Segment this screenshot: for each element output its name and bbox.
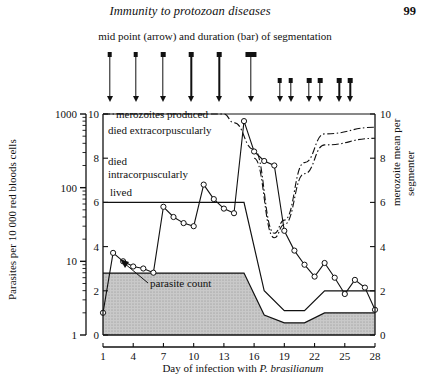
parasite-count-point bbox=[211, 197, 216, 202]
x-axis-tick-label: 28 bbox=[370, 350, 382, 362]
parasite-count-point bbox=[312, 274, 317, 279]
parasite-count-point bbox=[201, 182, 206, 187]
parasite-count-point bbox=[111, 250, 116, 255]
parasite-count-point bbox=[231, 211, 236, 216]
parasite-count-point bbox=[322, 260, 327, 265]
parasite-count-point bbox=[171, 214, 176, 219]
parasite-count-point bbox=[141, 266, 146, 271]
x-axis-title: Day of infection with P. brasilianum bbox=[162, 362, 323, 374]
y-inner-tick-label: 2 bbox=[94, 285, 100, 297]
y-inner-tick-label: 10 bbox=[88, 108, 100, 120]
x-axis-tick-label: 7 bbox=[161, 350, 167, 362]
died-extracorpuscularly-label: died extracorpuscularly bbox=[108, 124, 212, 136]
y-inner-tick-label: 4 bbox=[94, 241, 100, 253]
died-label-line1: died bbox=[108, 155, 127, 167]
parasite-count-point bbox=[181, 221, 186, 226]
parasite-count-point bbox=[332, 275, 337, 280]
parasite-count-point bbox=[221, 206, 226, 211]
y-left-tick-label: 1000 bbox=[55, 108, 78, 120]
merozoites-produced-label: merozoites produced bbox=[116, 108, 208, 120]
x-axis-tick-label: 16 bbox=[249, 350, 261, 362]
parasite-count-point bbox=[131, 264, 136, 269]
parasite-count-point bbox=[282, 228, 287, 233]
merozoites-produced-line-lower bbox=[254, 138, 375, 238]
y-left-tick-label: 1 bbox=[72, 329, 78, 341]
x-axis-tick-label: 10 bbox=[188, 350, 200, 362]
x-axis-tick-label: 25 bbox=[339, 350, 351, 362]
x-axis-tick-label: 1 bbox=[100, 350, 106, 362]
y-left-axis-title: Parasites per 10 000 red bloods cells bbox=[6, 139, 18, 300]
x-axis-tick-label: 13 bbox=[218, 350, 230, 362]
y-inner-tick-label: 0 bbox=[94, 329, 100, 341]
parasite-count-point bbox=[151, 270, 156, 275]
died-label-line2: intracorpuscularly bbox=[108, 168, 189, 180]
parasite-count-point bbox=[272, 163, 277, 168]
y-left-tick-label: 100 bbox=[61, 182, 78, 194]
parasite-count-point bbox=[252, 149, 257, 154]
y-right-tick-label: 0 bbox=[380, 329, 386, 341]
y-right-tick-label: 2 bbox=[380, 285, 386, 297]
x-axis-tick-label: 19 bbox=[279, 350, 291, 362]
y-left-tick-label: 10 bbox=[66, 255, 78, 267]
parasite-count-point bbox=[262, 158, 267, 163]
parasite-count-point bbox=[241, 119, 246, 124]
parasite-count-label: parasite count bbox=[150, 277, 211, 289]
y-right-tick-label: 8 bbox=[380, 152, 386, 164]
y-right-axis-title-line2: segmenter bbox=[404, 150, 416, 196]
chart-svg: 1471013161922252811010010001086420108642… bbox=[0, 0, 430, 383]
x-axis-tick-label: 4 bbox=[130, 350, 136, 362]
chart-plot-area: 1471013161922252811010010001086420108642… bbox=[0, 0, 430, 383]
lived-label: lived bbox=[110, 186, 132, 198]
parasite-count-point bbox=[292, 248, 297, 253]
lived-band-texture bbox=[103, 273, 375, 335]
y-right-tick-label: 6 bbox=[380, 196, 386, 208]
x-axis-tick-label: 22 bbox=[309, 350, 320, 362]
parasite-count-point bbox=[362, 285, 367, 290]
y-inner-tick-label: 8 bbox=[94, 152, 100, 164]
y-right-tick-label: 4 bbox=[380, 241, 386, 253]
parasite-count-point bbox=[352, 277, 357, 282]
y-right-axis-title-line1: merozoite mean per bbox=[390, 118, 402, 206]
parasite-count-point bbox=[191, 224, 196, 229]
y-right-tick-label: 10 bbox=[380, 108, 392, 120]
figure-page: Immunity to protozoan diseases 99 mid po… bbox=[0, 0, 430, 383]
parasite-count-point bbox=[342, 291, 347, 296]
parasite-count-point bbox=[161, 204, 166, 209]
y-inner-tick-label: 6 bbox=[94, 196, 100, 208]
parasite-count-point bbox=[302, 262, 307, 267]
